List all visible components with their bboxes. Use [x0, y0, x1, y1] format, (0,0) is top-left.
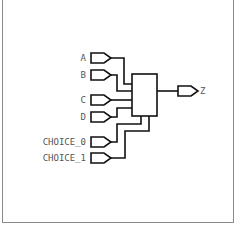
label-c: C	[81, 95, 86, 105]
label-d: D	[81, 112, 86, 122]
wire-choice-0	[111, 116, 141, 142]
label-choice-1: CHOICE_1	[43, 153, 86, 163]
label-z: Z	[200, 86, 206, 96]
buffer-icon-a[interactable]	[91, 53, 111, 63]
buffer-icon-d[interactable]	[91, 112, 111, 122]
buffer-icon-choice-1[interactable]	[91, 153, 111, 163]
label-choice-0: CHOICE_0	[43, 137, 86, 147]
mux-block[interactable]	[132, 74, 157, 116]
buffer-icon-c[interactable]	[91, 95, 111, 105]
label-a: A	[81, 53, 87, 63]
buffer-icon-choice-0[interactable]	[91, 137, 111, 147]
mux-schematic: A B C D CHOICE_0 CHOICE_1 Z	[0, 0, 240, 227]
wire-b	[111, 75, 132, 91]
wire-a	[111, 58, 132, 84]
buffer-icon-z[interactable]	[178, 86, 198, 96]
wire-d	[111, 108, 132, 117]
label-b: B	[81, 70, 86, 80]
buffer-icon-b[interactable]	[91, 70, 111, 80]
